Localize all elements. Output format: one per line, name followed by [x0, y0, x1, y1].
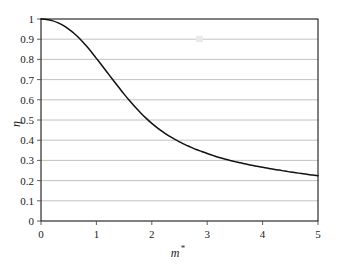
ytick-label-0.3: 0.3 — [20, 154, 34, 166]
x-axis-tick-labels: 0 1 2 3 4 5 — [38, 228, 321, 240]
x-axis-title-base: m — [171, 246, 180, 260]
y-axis-tick-labels: 1 0.9 0.8 0.7 0.6 0.5 0.4 0.3 0.2 0.1 0 — [20, 13, 34, 227]
x-axis-title: m * — [171, 243, 186, 260]
ytick-label-0.4: 0.4 — [20, 134, 34, 146]
data-curve-eta — [41, 19, 318, 176]
xtick-label-0: 0 — [38, 228, 44, 240]
ytick-label-1: 1 — [29, 13, 35, 25]
y-axis-tickmarks — [37, 19, 41, 221]
xtick-label-2: 2 — [149, 228, 155, 240]
ytick-label-0.1: 0.1 — [20, 195, 34, 207]
gridlines — [41, 39, 318, 201]
ytick-label-0.2: 0.2 — [20, 175, 34, 187]
xtick-label-1: 1 — [94, 228, 100, 240]
ytick-label-0: 0 — [29, 215, 35, 227]
ytick-label-0.9: 0.9 — [20, 33, 34, 45]
chart-canvas: 1 0.9 0.8 0.7 0.6 0.5 0.4 0.3 0.2 0.1 0 … — [0, 0, 343, 273]
xtick-label-3: 3 — [204, 228, 210, 240]
x-axis-tickmarks — [41, 221, 318, 225]
ytick-label-0.6: 0.6 — [20, 94, 34, 106]
x-axis-title-superscript: * — [181, 243, 186, 253]
ytick-label-0.8: 0.8 — [20, 53, 34, 65]
chart-figure: 1 0.9 0.8 0.7 0.6 0.5 0.4 0.3 0.2 0.1 0 … — [0, 0, 343, 273]
xtick-label-5: 5 — [315, 228, 321, 240]
y-axis-title: η — [9, 121, 23, 127]
xtick-label-4: 4 — [260, 228, 266, 240]
scan-artifact — [196, 36, 203, 42]
ytick-label-0.7: 0.7 — [20, 74, 34, 86]
